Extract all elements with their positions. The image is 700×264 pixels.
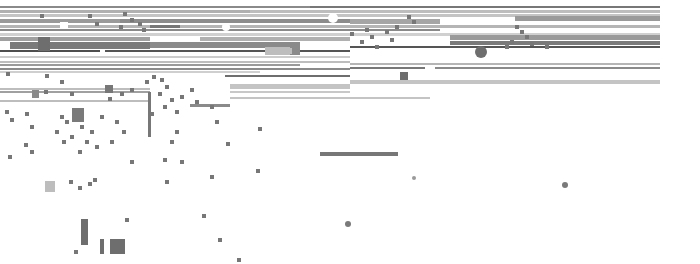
noise-speck xyxy=(202,214,206,218)
noise-block xyxy=(110,239,125,254)
noise-speck xyxy=(30,125,34,129)
noise-bar xyxy=(150,25,180,28)
noise-bar xyxy=(200,37,350,41)
noise-speck xyxy=(510,40,514,44)
noise-speck xyxy=(45,74,49,78)
noise-speck xyxy=(256,169,260,173)
noise-speck xyxy=(360,40,364,44)
noise-speck xyxy=(350,32,354,36)
noise-speck xyxy=(62,140,66,144)
noise-speck xyxy=(163,105,167,109)
noise-dot xyxy=(475,46,487,58)
noise-speck xyxy=(385,30,389,34)
noise-speck xyxy=(175,130,179,134)
noise-speck xyxy=(100,115,104,119)
noise-speck xyxy=(237,258,241,262)
noise-speck xyxy=(525,35,529,39)
noise-speck xyxy=(60,80,64,84)
noise-speck xyxy=(123,12,127,16)
noise-speck xyxy=(70,92,74,96)
noise-block xyxy=(100,239,104,254)
noise-block xyxy=(32,90,39,98)
noise-bar xyxy=(0,25,660,28)
noise-speck xyxy=(80,125,84,129)
noise-speck xyxy=(210,175,214,179)
noise-speck xyxy=(226,142,230,146)
noise-dot xyxy=(222,23,230,31)
noise-bar xyxy=(0,71,260,73)
noise-speck xyxy=(395,25,399,29)
noise-bar xyxy=(515,16,660,21)
noise-speck xyxy=(130,18,134,22)
noise-bar xyxy=(0,91,150,93)
noise-speck xyxy=(90,130,94,134)
noise-block xyxy=(38,37,50,51)
noise-speck xyxy=(125,218,129,222)
noise-speck xyxy=(158,92,162,96)
noise-speck xyxy=(165,85,169,89)
noise-dot xyxy=(328,13,338,23)
noise-block xyxy=(60,22,68,28)
noise-block xyxy=(2,42,10,50)
noise-bar xyxy=(230,91,350,93)
noise-speck xyxy=(69,180,73,184)
noise-block xyxy=(400,72,408,80)
noise-speck xyxy=(160,78,164,82)
noise-bar xyxy=(0,64,300,66)
noise-speck xyxy=(150,112,154,116)
glitch-canvas xyxy=(0,0,700,264)
noise-speck xyxy=(74,250,78,254)
noise-block xyxy=(72,108,84,122)
noise-block xyxy=(270,48,292,54)
noise-speck xyxy=(370,35,374,39)
noise-block xyxy=(81,219,88,245)
noise-speck xyxy=(505,45,509,49)
noise-speck xyxy=(390,38,394,42)
noise-bar xyxy=(450,35,660,40)
noise-speck xyxy=(180,95,184,99)
noise-speck xyxy=(170,98,174,102)
noise-bar xyxy=(250,10,660,13)
noise-bar xyxy=(0,6,310,8)
noise-speck xyxy=(60,115,64,119)
noise-bar xyxy=(230,84,350,89)
noise-speck xyxy=(55,130,59,134)
noise-bar xyxy=(0,88,150,90)
noise-bar xyxy=(0,50,100,52)
noise-speck xyxy=(25,112,29,116)
noise-speck xyxy=(190,88,194,92)
noise-bar xyxy=(350,19,440,24)
noise-speck xyxy=(108,97,112,101)
noise-bar xyxy=(450,41,660,45)
noise-speck xyxy=(165,180,169,184)
noise-speck xyxy=(130,88,134,92)
noise-speck xyxy=(8,155,12,159)
noise-bar xyxy=(0,56,350,58)
noise-bar xyxy=(320,152,398,156)
noise-speck xyxy=(120,92,124,96)
noise-speck xyxy=(78,186,82,190)
noise-speck xyxy=(30,150,34,154)
noise-dot xyxy=(345,221,351,227)
noise-bar xyxy=(0,61,350,63)
noise-speck xyxy=(163,158,167,162)
noise-bar xyxy=(435,67,660,69)
noise-speck xyxy=(110,140,114,144)
noise-bar xyxy=(225,75,350,77)
noise-speck xyxy=(545,45,549,49)
noise-speck xyxy=(142,28,146,32)
noise-speck xyxy=(93,178,97,182)
noise-speck xyxy=(180,160,184,164)
noise-bar xyxy=(120,19,350,23)
noise-bar xyxy=(0,29,440,31)
noise-speck xyxy=(152,75,156,79)
noise-speck xyxy=(210,105,214,109)
noise-block xyxy=(45,181,55,192)
noise-speck xyxy=(44,90,48,94)
noise-speck xyxy=(218,238,222,242)
noise-bar xyxy=(10,42,150,49)
noise-speck xyxy=(515,25,519,29)
noise-bar xyxy=(230,97,430,99)
noise-speck xyxy=(215,120,219,124)
noise-bar xyxy=(0,100,150,102)
